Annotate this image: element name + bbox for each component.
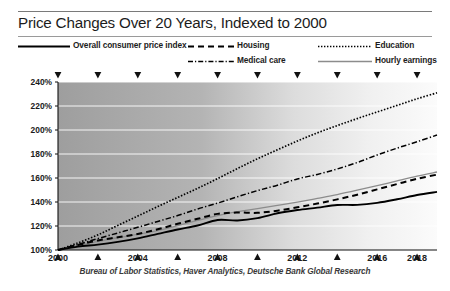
y-tick-label: 220% <box>18 101 52 111</box>
top-tick-marker <box>134 72 141 79</box>
top-tick-marker <box>254 72 261 79</box>
plot-background <box>58 82 437 250</box>
top-tick-marker <box>174 72 181 79</box>
bottom-tick-marker <box>334 254 341 261</box>
y-tick-label: 120% <box>18 221 52 231</box>
x-tick-label: 2018 <box>407 253 427 263</box>
y-tick-label: 240% <box>18 77 52 87</box>
x-tick-label: 2012 <box>287 253 307 263</box>
bottom-tick-marker <box>94 254 101 261</box>
y-tick-label: 160% <box>18 173 52 183</box>
bottom-tick-marker <box>254 254 261 261</box>
source-note: Bureau of Labor Statistics, Haver Analyt… <box>0 267 450 276</box>
x-tick-label: 2008 <box>208 253 228 263</box>
top-tick-marker <box>414 72 421 79</box>
chart-figure: Price Changes Over 20 Years, Indexed to … <box>0 0 450 291</box>
top-tick-marker <box>55 72 62 79</box>
y-tick-label: 200% <box>18 125 52 135</box>
y-axis-labels: 100%120%140%160%180%200%220%240% <box>16 0 52 291</box>
bottom-tick-marker <box>174 254 181 261</box>
plot-area <box>0 0 450 291</box>
x-tick-label: 2000 <box>48 253 68 263</box>
top-tick-marker <box>294 72 301 79</box>
top-tick-marker <box>214 72 221 79</box>
y-tick-label: 140% <box>18 197 52 207</box>
top-tick-marker <box>334 72 341 79</box>
x-tick-label: 2004 <box>128 253 148 263</box>
x-tick-label: 2016 <box>367 253 387 263</box>
top-tick-marker <box>374 72 381 79</box>
y-tick-label: 180% <box>18 149 52 159</box>
y-tick-label: 100% <box>18 245 52 255</box>
top-tick-marker <box>94 72 101 79</box>
